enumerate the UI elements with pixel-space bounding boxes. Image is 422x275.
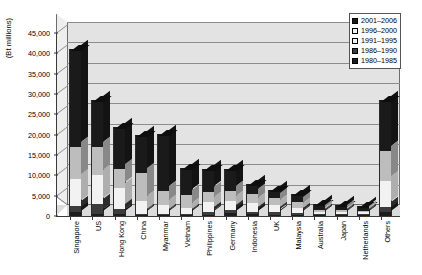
bar-segment	[113, 127, 126, 170]
legend-item: 1986–1990	[352, 46, 397, 56]
bar-group	[180, 168, 193, 216]
x-tick-label: Netherlands	[362, 221, 369, 260]
bar-group	[69, 49, 82, 216]
bar-segment	[202, 202, 215, 212]
x-tick-label: Others	[384, 221, 391, 243]
x-tick-mark	[70, 216, 71, 220]
x-tick-mark	[270, 216, 271, 220]
x-tick-mark	[226, 216, 227, 220]
x-tick-mark	[159, 216, 160, 220]
bar-group	[357, 206, 370, 216]
x-tick-label: China	[140, 221, 147, 240]
chart-legend: 2001–20061996–20001991–19951986–19901980…	[349, 13, 401, 69]
bar-group	[268, 190, 281, 216]
legend-item: 1996–2000	[352, 26, 397, 36]
x-tick-mark	[92, 216, 93, 220]
legend-label: 1980–1985	[361, 57, 397, 64]
bar-segment	[91, 147, 104, 175]
bar-group	[91, 100, 104, 216]
bar-group	[313, 204, 326, 216]
bar-group	[202, 169, 215, 216]
legend-swatch	[352, 48, 358, 54]
bar-segment	[291, 194, 304, 203]
legend-swatch	[352, 28, 358, 34]
x-tick-label: Hong Kong	[118, 221, 125, 257]
x-tick-label: Vietnam	[184, 221, 191, 247]
bar-segment	[91, 204, 104, 214]
bar-segment	[202, 192, 215, 202]
x-tick-label: Germany	[229, 221, 236, 251]
x-tick-label: Indonesia	[251, 221, 258, 252]
x-tick-mark	[181, 216, 182, 220]
bar-group	[135, 135, 148, 216]
legend-swatch	[352, 18, 358, 24]
bar-segment	[202, 169, 215, 191]
bar-group	[291, 194, 304, 216]
bar-group	[379, 100, 392, 216]
legend-item: 1980–1985	[352, 56, 397, 66]
bar-segment-side	[81, 40, 88, 142]
legend-label: 1996–2000	[361, 27, 397, 34]
x-tick-mark	[359, 216, 360, 220]
bar-segment	[379, 100, 392, 151]
bar-segment	[69, 49, 82, 147]
bar-chart: (Bt millions) 05,00010,00015,00020,00025…	[0, 0, 422, 275]
x-tick-mark	[337, 216, 338, 220]
bar-group	[224, 169, 237, 216]
bar-segment	[180, 195, 193, 208]
x-tick-label: Australia	[317, 221, 324, 249]
bar-group	[113, 127, 126, 216]
bar-segment	[180, 168, 193, 194]
x-tick-label: Myanmar	[162, 221, 169, 251]
bar-group	[246, 184, 259, 217]
x-tick-label: UK	[273, 221, 280, 231]
legend-label: 2001–2006	[361, 17, 397, 24]
x-tick-label: Japan	[340, 221, 347, 241]
legend-item: 1991–1995	[352, 36, 397, 46]
bar-segment	[157, 134, 170, 191]
x-tick-mark	[137, 216, 138, 220]
x-tick-mark	[292, 216, 293, 220]
legend-label: 1991–1995	[361, 37, 397, 44]
bar-segment	[135, 201, 148, 214]
bar-segment	[91, 100, 104, 147]
x-tick-mark	[381, 216, 382, 220]
x-tick-label: Malaysia	[295, 221, 302, 249]
x-tick-mark	[248, 216, 249, 220]
bar-group	[157, 134, 170, 216]
x-tick-mark	[115, 216, 116, 220]
x-tick-label: Singapore	[73, 221, 80, 254]
legend-swatch	[352, 38, 358, 44]
x-tick-label: US	[95, 221, 102, 231]
bar-segment	[91, 175, 104, 203]
bar-segment	[69, 147, 82, 180]
x-tick-label: Philippines	[206, 221, 213, 256]
legend-label: 1986–1990	[361, 47, 397, 54]
bar-group	[335, 205, 348, 216]
legend-swatch	[352, 58, 358, 64]
x-tick-mark	[203, 216, 204, 220]
legend-item: 2001–2006	[352, 16, 397, 26]
x-tick-mark	[314, 216, 315, 220]
bar-segment	[69, 179, 82, 205]
